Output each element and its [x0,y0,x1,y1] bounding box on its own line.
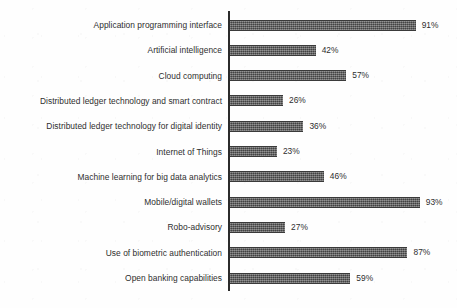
category-label: Application programming interface [94,14,222,36]
category-label: Use of biometric authentication [106,242,222,264]
category-label: Mobile/digital wallets [144,191,222,213]
bar-value-label: 46% [330,172,347,181]
category-label: Robo-advisory [167,216,222,238]
category-label: Internet of Things [156,141,222,163]
horizontal-bar-chart: Application programming interface91%Arti… [0,0,457,308]
bar-value-label: 93% [426,198,443,207]
bar-row: Internet of Things23% [0,141,457,163]
bar-row: Mobile/digital wallets93% [0,191,457,213]
bar [230,222,285,233]
bar-and-value: 36% [230,115,326,137]
bar-value-label: 23% [283,147,300,156]
bar-and-value: 23% [230,141,300,163]
bar-row: Distributed ledger technology and smart … [0,90,457,112]
bar-value-label: 59% [356,274,373,283]
bar-and-value: 59% [230,267,373,289]
bar-row: Robo-advisory27% [0,216,457,238]
bar [230,273,350,284]
bar [230,197,420,208]
bar [230,20,416,31]
category-label: Open banking capabilities [125,267,222,289]
bar-value-label: 27% [291,223,308,232]
bar-and-value: 46% [230,166,347,188]
bar-row: Distributed ledger technology for digita… [0,115,457,137]
bar-value-label: 26% [289,96,306,105]
bar [230,146,277,157]
category-label: Distributed ledger technology and smart … [40,90,222,112]
bar-value-label: 42% [322,46,339,55]
bar-and-value: 42% [230,39,338,61]
bar [230,45,316,56]
category-label: Cloud computing [159,65,222,87]
bar-row: Artificial intelligence42% [0,39,457,61]
category-label: Distributed ledger technology for digita… [46,115,222,137]
bar [230,121,303,132]
bar-and-value: 91% [230,14,438,36]
bar-row: Cloud computing57% [0,65,457,87]
bar-value-label: 87% [413,248,430,257]
bar [230,70,346,81]
bar-and-value: 26% [230,90,306,112]
category-label: Machine learning for big data analytics [78,166,222,188]
bar-row: Open banking capabilities59% [0,267,457,289]
bar-value-label: 91% [422,21,439,30]
category-label: Artificial intelligence [148,39,222,61]
bar-and-value: 57% [230,65,369,87]
bar-row: Use of biometric authentication87% [0,242,457,264]
bar [230,247,407,258]
bar-and-value: 87% [230,242,430,264]
bar-row: Application programming interface91% [0,14,457,36]
bar-and-value: 27% [230,216,308,238]
bar [230,171,324,182]
bar-value-label: 57% [352,71,369,80]
bar-value-label: 36% [309,122,326,131]
bar-row: Machine learning for big data analytics4… [0,166,457,188]
bar-and-value: 93% [230,191,442,213]
plot-area: Application programming interface91%Arti… [0,0,457,308]
bar [230,95,283,106]
